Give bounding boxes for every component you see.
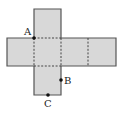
bottom-face: [34, 66, 61, 95]
label-a: A: [23, 26, 32, 37]
point-a: [32, 36, 36, 40]
point-c: [46, 93, 50, 97]
cube-net-diagram: A B C: [0, 0, 122, 114]
top-face: [34, 9, 61, 38]
point-b: [59, 78, 63, 82]
label-b: B: [64, 75, 71, 86]
label-c: C: [44, 98, 52, 109]
